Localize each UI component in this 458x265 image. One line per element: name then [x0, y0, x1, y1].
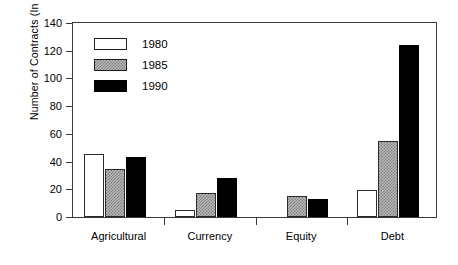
- x-axis-label-agricultural: Agricultural: [91, 230, 146, 242]
- legend-item-1980: 1980: [94, 36, 168, 52]
- x-axis-tick: [256, 217, 257, 225]
- y-axis-tick: [66, 162, 73, 163]
- legend-label-1990: 1990: [142, 80, 168, 92]
- y-axis-title: Number of Contracts (In Millions): [28, 0, 40, 140]
- y-axis-tick-label: 100: [44, 72, 62, 84]
- bar-equity-1990: [308, 199, 328, 217]
- x-axis-tick: [164, 217, 165, 225]
- legend-label-1980: 1980: [142, 38, 168, 50]
- y-axis-tick: [66, 189, 73, 190]
- legend: 1980 1985 1990: [94, 36, 168, 99]
- x-axis-label-equity: Equity: [286, 230, 317, 242]
- bar-agricultural-1990: [126, 157, 146, 217]
- y-axis-tick: [66, 106, 73, 107]
- y-axis-tick-label: 60: [50, 128, 62, 140]
- y-axis-tick-label: 40: [50, 156, 62, 168]
- y-axis-tick-label: 120: [44, 45, 62, 57]
- y-axis-tick-label: 80: [50, 100, 62, 112]
- bar-currency-1990: [217, 178, 237, 217]
- legend-item-1985: 1985: [94, 57, 168, 73]
- bar-agricultural-1985: [105, 169, 125, 217]
- x-axis-label-currency: Currency: [188, 230, 233, 242]
- y-axis-tick: [66, 78, 73, 79]
- y-axis-tick: [66, 134, 73, 135]
- bar-equity-1985: [287, 196, 307, 217]
- legend-label-1985: 1985: [142, 59, 168, 71]
- bar-currency-1985: [196, 193, 216, 217]
- legend-item-1990: 1990: [94, 78, 168, 94]
- y-axis-tick-label: 0: [56, 211, 62, 223]
- x-axis-label-debt: Debt: [381, 230, 404, 242]
- bar-currency-1980: [175, 210, 195, 217]
- legend-swatch-1980-icon: [94, 38, 127, 50]
- bar-chart: Number of Contracts (In Millions) 020406…: [0, 0, 458, 265]
- bar-debt-1980: [357, 190, 377, 217]
- y-axis-tick: [66, 217, 73, 218]
- legend-swatch-1990-icon: [94, 80, 127, 92]
- bar-debt-1985: [378, 141, 398, 217]
- bar-debt-1990: [399, 45, 419, 217]
- y-axis-tick: [66, 23, 73, 24]
- x-axis-tick: [347, 217, 348, 225]
- y-axis-tick-label: 20: [50, 183, 62, 195]
- bar-agricultural-1980: [84, 154, 104, 217]
- y-axis-tick: [66, 51, 73, 52]
- y-axis-tick-label: 140: [44, 17, 62, 29]
- legend-swatch-1985-icon: [94, 59, 127, 71]
